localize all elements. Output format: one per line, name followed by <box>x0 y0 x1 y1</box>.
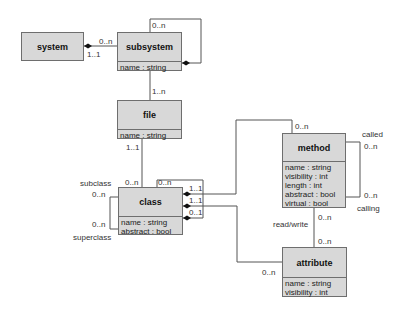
class-box-method[interactable]: method name : string visibility : int le… <box>282 133 346 208</box>
attribute-item: abstract : bool <box>121 227 180 236</box>
multiplicity-label: 1..1 <box>87 50 100 59</box>
class-box-class[interactable]: class name : string abstract : bool <box>118 187 183 235</box>
multiplicity-label: 1..1 <box>189 196 202 205</box>
multiplicity-label: 0..n <box>125 178 138 187</box>
multiplicity-label: 1..1 <box>189 184 202 193</box>
class-box-attribute[interactable]: attribute name : string visibility : int <box>282 247 347 297</box>
role-label: calling <box>357 204 380 213</box>
association-label: read/write <box>273 220 308 229</box>
class-name: method <box>283 134 345 162</box>
multiplicity-label: 0..n <box>364 191 377 200</box>
class-name: file <box>118 101 181 130</box>
multiplicity-label: 1..n <box>152 87 165 96</box>
class-box-file[interactable]: file name : string <box>117 100 182 139</box>
class-box-system[interactable]: system <box>21 32 84 61</box>
multiplicity-label: 0..n <box>295 122 308 131</box>
multiplicity-label: 0..n <box>92 220 105 229</box>
attribute-item: length : int <box>285 181 343 190</box>
role-label: subclass <box>80 179 111 188</box>
attribute-list: name : string <box>118 62 181 72</box>
multiplicity-label: 0..n <box>262 268 275 277</box>
multiplicity-label: 0..n <box>364 142 377 151</box>
attribute-item: name : string <box>120 63 179 72</box>
attribute-item: visibility : int <box>285 288 344 297</box>
class-name: subsystem <box>118 33 181 62</box>
class-name: system <box>22 33 83 60</box>
multiplicity-label: 1..1 <box>126 143 139 152</box>
attribute-item: name : string <box>285 163 343 172</box>
multiplicity-label: 0..1 <box>189 208 202 217</box>
attribute-item: abstract : bool <box>285 190 343 199</box>
multiplicity-label: 0..n <box>318 213 331 222</box>
multiplicity-label: 0..n <box>99 37 112 46</box>
class-name: attribute <box>283 248 346 278</box>
class-name: class <box>119 188 182 217</box>
attribute-item: name : string <box>121 218 180 227</box>
class-box-subsystem[interactable]: subsystem name : string <box>117 32 182 71</box>
attribute-item: virtual : bool <box>285 199 343 208</box>
multiplicity-label: 0..n <box>158 178 171 187</box>
attribute-item: name : string <box>285 279 344 288</box>
attribute-list: name : string <box>118 130 181 140</box>
attribute-list: name : string visibility : int <box>283 278 346 297</box>
role-label: called <box>362 130 383 139</box>
attribute-list: name : string visibility : int length : … <box>283 162 345 208</box>
attribute-item: visibility : int <box>285 172 343 181</box>
multiplicity-label: 0..n <box>152 21 165 30</box>
role-label: superclass <box>73 233 111 242</box>
attribute-list: name : string abstract : bool <box>119 217 182 236</box>
multiplicity-label: 0..n <box>92 190 105 199</box>
attribute-item: name : string <box>120 131 179 140</box>
multiplicity-label: 0..n <box>318 237 331 246</box>
